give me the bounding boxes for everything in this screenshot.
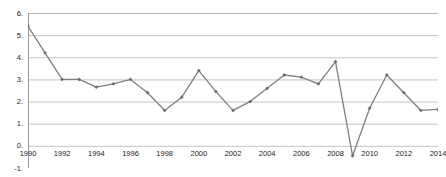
x-tick-label-2008: 2008: [327, 150, 344, 158]
x-tick-label-2012: 2012: [395, 150, 412, 158]
x-tick-label-2004: 2004: [259, 150, 276, 158]
x-tick-label-2010: 2010: [361, 150, 378, 158]
x-tick-label-1994: 1994: [88, 150, 105, 158]
x-tick-label-1996: 1996: [122, 150, 139, 158]
x-tick-label-1990: 1990: [20, 150, 37, 158]
x-tick-label-2014: 2014: [430, 150, 446, 158]
x-tick-label-1998: 1998: [156, 150, 173, 158]
x-tick-label-1992: 1992: [54, 150, 71, 158]
x-tick-label-2002: 2002: [225, 150, 242, 158]
x-tick-label-2000: 2000: [190, 150, 207, 158]
x-tick-label-2006: 2006: [293, 150, 310, 158]
